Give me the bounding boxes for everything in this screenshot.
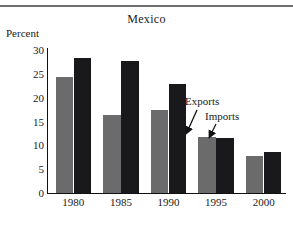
y-axis-title: Percent: [6, 27, 39, 39]
x-tick-label-2000: 2000: [236, 196, 292, 208]
y-tick-label: 20: [0, 92, 44, 104]
bar-exports-1980: [56, 77, 74, 193]
bar-imports-1980: [74, 58, 92, 193]
bar-exports-1985: [103, 115, 121, 193]
bar-group-2000: [246, 50, 282, 193]
annotation-imports-label: Imports: [205, 110, 239, 122]
bar-group-1985: [103, 50, 139, 193]
y-tick-label: 10: [0, 139, 44, 151]
y-tick-label: 25: [0, 68, 44, 80]
y-tick-label: 5: [0, 163, 44, 175]
bar-group-1990: [151, 50, 187, 193]
bar-imports-1990: [169, 84, 187, 193]
y-tick-label: 0: [0, 187, 44, 199]
plot-area: [48, 50, 286, 193]
y-tick-label: 15: [0, 116, 44, 128]
bar-exports-1990: [151, 110, 169, 193]
bar-group-1980: [56, 50, 92, 193]
annotation-exports-label: Exports: [185, 95, 219, 107]
bar-imports-1985: [121, 61, 139, 193]
top-horizontal-rule: [0, 5, 293, 7]
bar-exports-1995: [198, 137, 216, 193]
bar-exports-2000: [246, 156, 264, 193]
y-tick-label: 30: [0, 44, 44, 56]
chart-title: Mexico: [0, 12, 293, 27]
bar-imports-2000: [264, 152, 282, 193]
bar-imports-1995: [216, 138, 234, 193]
